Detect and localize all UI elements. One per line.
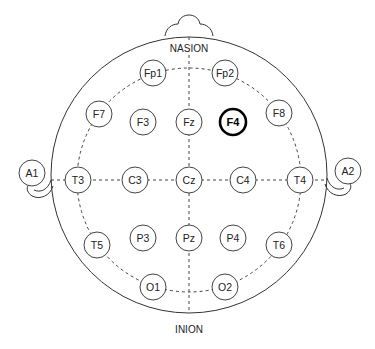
electrode-cz: Cz [176, 167, 202, 193]
electrode-f8: F8 [266, 100, 292, 126]
svg-text:Fz: Fz [183, 116, 195, 128]
svg-text:F7: F7 [93, 108, 105, 120]
svg-text:Fp1: Fp1 [144, 67, 162, 79]
electrode-t5: T5 [84, 232, 110, 258]
electrode-fz: Fz [176, 109, 202, 135]
electrode-t4: T4 [287, 167, 313, 193]
electrode-a1: A1 [19, 160, 45, 186]
svg-text:P4: P4 [227, 232, 240, 244]
electrode-fp2: Fp2 [212, 60, 238, 86]
electrode-c3: C3 [122, 167, 148, 193]
svg-text:T3: T3 [72, 174, 84, 186]
svg-text:A2: A2 [342, 165, 355, 177]
electrode-a2: A2 [335, 158, 361, 184]
svg-text:F8: F8 [273, 107, 285, 119]
svg-text:O1: O1 [146, 281, 160, 293]
electrode-pz: Pz [176, 225, 202, 251]
svg-text:T6: T6 [273, 239, 285, 251]
electrode-f7: F7 [86, 101, 112, 127]
electrode-o2: O2 [212, 274, 238, 300]
svg-text:C3: C3 [128, 174, 142, 186]
electrode-f3: F3 [130, 109, 156, 135]
electrode-o1: O1 [140, 274, 166, 300]
electrode-fp1: Fp1 [140, 60, 166, 86]
inion-label: INION [175, 324, 203, 335]
svg-text:T4: T4 [294, 174, 306, 186]
eeg-10-20-diagram: NASION INION A1 A2 Fp1 Fp2 F7 F3 Fz F4 F… [0, 0, 375, 349]
svg-text:T5: T5 [91, 239, 103, 251]
nose-outline [165, 15, 213, 36]
svg-text:F3: F3 [137, 116, 149, 128]
svg-text:Pz: Pz [183, 232, 195, 244]
electrode-t6: T6 [266, 232, 292, 258]
electrode-p4: P4 [220, 225, 246, 251]
svg-text:Fp2: Fp2 [216, 67, 234, 79]
svg-text:Cz: Cz [183, 174, 196, 186]
svg-text:P3: P3 [137, 232, 150, 244]
electrode-p3: P3 [130, 225, 156, 251]
electrode-c4: C4 [230, 167, 256, 193]
svg-text:C4: C4 [236, 174, 250, 186]
electrode-t3: T3 [65, 167, 91, 193]
nasion-label: NASION [170, 43, 208, 54]
svg-text:O2: O2 [218, 281, 232, 293]
svg-text:A1: A1 [26, 167, 39, 179]
electrode-f4-highlighted: F4 [220, 109, 246, 135]
svg-text:F4: F4 [227, 116, 241, 128]
